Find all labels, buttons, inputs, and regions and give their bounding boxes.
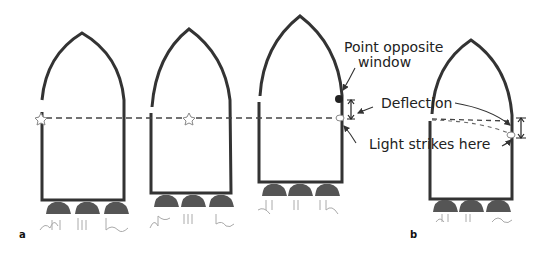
diagram: Point opposite window Deflection Light s… bbox=[0, 0, 552, 254]
label-window: window bbox=[358, 55, 411, 70]
rocket-3-hull bbox=[259, 16, 342, 182]
label-deflection: Deflection bbox=[381, 96, 452, 111]
flash-icon bbox=[336, 115, 344, 121]
label-point-opposite: Point opposite bbox=[344, 40, 443, 55]
rocket-2-hull-upper bbox=[151, 29, 231, 193]
light-beam-b-curved bbox=[432, 120, 511, 134]
flash-icon bbox=[507, 132, 515, 138]
flash-icon bbox=[183, 113, 195, 125]
rocket-diagram bbox=[0, 0, 552, 254]
rocket-1-hull bbox=[42, 33, 124, 200]
panel-label-b: b bbox=[410, 229, 417, 240]
label-light-strikes: Light strikes here bbox=[369, 137, 490, 152]
flash-icon bbox=[35, 113, 47, 125]
point-opposite-marker bbox=[335, 95, 343, 103]
panel-label-a: a bbox=[19, 229, 26, 240]
